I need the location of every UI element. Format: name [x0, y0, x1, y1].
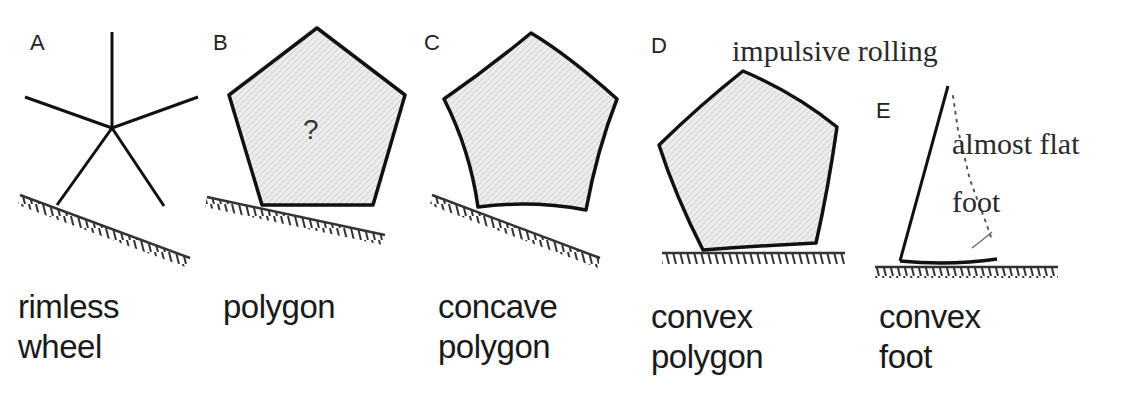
- caption-c-line1: concave: [438, 287, 557, 327]
- flat-ground-d: [662, 253, 845, 264]
- panel-label-a: A: [30, 30, 45, 56]
- concave-polygon-drawing: [444, 33, 617, 210]
- caption-a-line1: rimless: [18, 287, 119, 327]
- foot-annotation: foot: [952, 185, 1000, 219]
- question-mark: ?: [303, 114, 319, 146]
- caption-b: polygon: [223, 287, 335, 327]
- panel-label-b: B: [213, 30, 228, 56]
- panel-label-c: C: [424, 30, 440, 56]
- caption-c: concave polygon: [438, 287, 557, 367]
- panel-label-d: D: [651, 33, 667, 59]
- convex-polygon-drawing: [659, 71, 837, 250]
- convex-foot-drawing: [900, 86, 997, 263]
- caption-a-line2: wheel: [18, 327, 119, 367]
- caption-e-line2: foot: [879, 337, 981, 377]
- caption-c-line2: polygon: [438, 327, 557, 367]
- caption-e: convex foot: [879, 297, 981, 377]
- rimless-wheel-drawing: [25, 32, 198, 206]
- caption-d-line2: polygon: [651, 337, 763, 377]
- caption-a: rimless wheel: [18, 287, 119, 367]
- caption-d-line1: convex: [651, 297, 763, 337]
- caption-e-line1: convex: [879, 297, 981, 337]
- caption-d: convex polygon: [651, 297, 763, 377]
- slope-ground-a: [18, 195, 190, 268]
- flat-ground-e: [875, 267, 1058, 278]
- caption-b-line1: polygon: [223, 287, 335, 327]
- almost-flat-annotation: almost flat: [952, 127, 1079, 161]
- impulsive-rolling-annotation: impulsive rolling: [732, 34, 938, 68]
- panel-label-e: E: [876, 98, 891, 124]
